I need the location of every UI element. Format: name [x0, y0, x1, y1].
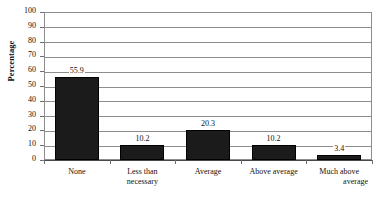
x-axis-label: Less thannecessary: [110, 167, 176, 187]
bar-group: 3.4: [306, 12, 372, 160]
bar-chart: Percentage 1009080706050403020100 55.910…: [0, 0, 381, 203]
y-tick-label: 80: [10, 36, 36, 45]
bars-layer: 55.910.220.310.23.4: [44, 12, 372, 160]
y-tick-label: 10: [10, 139, 36, 148]
bar-group: 55.9: [44, 12, 110, 160]
x-tick-mark: [175, 160, 176, 164]
x-tick-mark: [44, 160, 45, 164]
x-axis-label: Above average: [241, 167, 307, 177]
x-tick-mark: [372, 160, 373, 164]
bar-value-label: 55.9: [69, 66, 85, 75]
bar[interactable]: [186, 130, 230, 160]
y-tick-label: 0: [10, 154, 36, 163]
bar-group: 10.2: [110, 12, 176, 160]
y-tick-label: 70: [10, 50, 36, 59]
x-axis-labels: NoneLess thannecessaryAverageAbove avera…: [44, 167, 372, 201]
y-tick-label: 100: [10, 6, 36, 15]
x-tick-mark: [110, 160, 111, 164]
x-axis-label: None: [44, 167, 110, 177]
bar[interactable]: [120, 145, 164, 160]
x-axis-line: [44, 160, 372, 161]
bar-value-label: 10.2: [134, 134, 150, 143]
y-tick-label: 30: [10, 110, 36, 119]
bar[interactable]: [252, 145, 296, 160]
x-axis-label: Average: [175, 167, 241, 177]
y-tick-label: 90: [10, 21, 36, 30]
y-tick-label: 50: [10, 80, 36, 89]
bar-value-label: 20.3: [200, 119, 216, 128]
y-tick-label: 60: [10, 65, 36, 74]
x-axis-label: Much aboveaverage: [306, 167, 372, 187]
bar-value-label: 10.2: [266, 134, 282, 143]
y-tick-label: 40: [10, 95, 36, 104]
bar-group: 20.3: [175, 12, 241, 160]
y-tick-label: 20: [10, 124, 36, 133]
bar-group: 10.2: [241, 12, 307, 160]
x-tick-mark: [306, 160, 307, 164]
x-tick-mark: [241, 160, 242, 164]
bar[interactable]: [55, 77, 99, 160]
bar-value-label: 3.4: [333, 144, 345, 153]
